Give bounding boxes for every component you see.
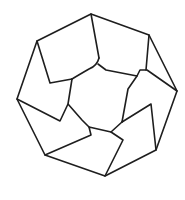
inner-line bbox=[37, 41, 72, 83]
inner-line bbox=[122, 76, 137, 122]
octagon-diagram bbox=[0, 0, 185, 200]
inner-line bbox=[91, 14, 99, 58]
outer-octagon bbox=[17, 14, 177, 176]
inner-line bbox=[45, 127, 111, 155]
inner-line bbox=[122, 104, 156, 150]
inner-line bbox=[146, 35, 149, 70]
inner-curve bbox=[72, 58, 99, 79]
diagram-svg bbox=[0, 0, 185, 200]
inner-line bbox=[68, 104, 89, 127]
